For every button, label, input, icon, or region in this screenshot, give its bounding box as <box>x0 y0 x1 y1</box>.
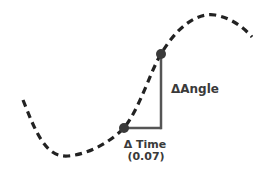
angular-velocity-diagram: ΔAngle Δ Time (0.07) <box>0 0 265 177</box>
end-point-marker <box>156 49 166 59</box>
delta-time-value: (0.07) <box>127 150 164 163</box>
start-point-marker <box>119 123 129 133</box>
delta-angle-label: ΔAngle <box>171 82 219 96</box>
